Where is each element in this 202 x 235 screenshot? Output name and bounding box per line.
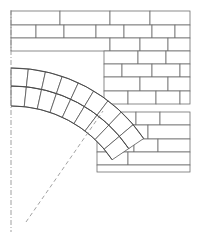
brick [104, 51, 138, 64]
brick [148, 125, 190, 139]
brick [138, 51, 166, 64]
brick [168, 77, 190, 91]
brick [158, 139, 190, 152]
brick [36, 25, 64, 38]
brick [168, 38, 190, 51]
brick [150, 11, 190, 25]
brick [104, 64, 122, 77]
brick [156, 91, 180, 104]
brick [110, 11, 150, 25]
brick [160, 112, 190, 125]
voussoir-ring2 [11, 68, 28, 87]
brick [11, 11, 60, 25]
brick [124, 25, 152, 38]
brick [104, 77, 140, 91]
brick [128, 91, 156, 104]
brick [11, 38, 110, 51]
brick [180, 91, 190, 104]
drawing-canvas [0, 0, 202, 235]
brick [175, 25, 190, 38]
brick [136, 112, 160, 125]
brick [166, 51, 190, 64]
brick [152, 64, 180, 77]
middle-right-brick-wall [104, 51, 190, 104]
brick [97, 165, 190, 172]
upper-brick-wall [11, 11, 190, 51]
brick [96, 25, 124, 38]
brick [140, 77, 168, 91]
brick [152, 25, 175, 38]
brick [64, 25, 96, 38]
brick [180, 64, 190, 77]
brick [11, 25, 36, 38]
voussoir-ring1 [11, 86, 26, 107]
masonry-arch-drawing [0, 0, 202, 235]
brick [128, 152, 190, 165]
brick [140, 38, 168, 51]
brick [122, 64, 152, 77]
brick [110, 38, 140, 51]
brick [60, 11, 110, 25]
